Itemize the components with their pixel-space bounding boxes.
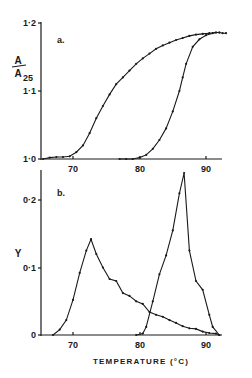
data-point [52, 334, 54, 336]
panel-b-xtick-label-90: 90 [201, 340, 211, 350]
data-point [82, 144, 84, 146]
data-point [172, 110, 174, 112]
panel-a-ytick-label-1.1: 1·1 [23, 86, 36, 96]
data-point [115, 83, 117, 85]
data-point [135, 63, 137, 65]
data-point [128, 295, 130, 297]
data-point [72, 299, 74, 301]
data-point [155, 314, 157, 316]
data-point [182, 325, 184, 327]
data-point [115, 280, 117, 282]
panel-b-ytick-label-0.2: 0·2 [23, 195, 36, 205]
panel-a-ylabel-denominator: A [14, 68, 21, 79]
data-point [202, 331, 204, 333]
data-point [142, 333, 144, 335]
data-point [182, 37, 184, 39]
chart-figure: 1·2 1·1 1·0 70 80 90 A A 25 a. 0·2 0·1 0… [0, 0, 252, 378]
panel-a-xtick-label-90: 90 [201, 164, 211, 174]
data-point [168, 42, 170, 44]
data-point [212, 326, 214, 328]
data-point [69, 155, 71, 157]
panel-b-ytick-label-0: 0 [31, 330, 36, 340]
data-point [165, 127, 167, 129]
data-point [59, 329, 61, 331]
series-line-curve-1-derivative [53, 239, 219, 335]
data-point [79, 272, 81, 274]
data-point [90, 238, 92, 240]
data-point [142, 57, 144, 59]
data-point [225, 32, 227, 34]
panel-b-xtick-label-80: 80 [135, 340, 145, 350]
data-point [122, 292, 124, 294]
data-point [142, 303, 144, 305]
data-point [152, 300, 154, 302]
data-point [95, 253, 97, 255]
panel-a-ylabel-subscript: 25 [23, 73, 33, 83]
panel-a-ytick-label-1.0: 1·0 [23, 154, 36, 164]
data-point [89, 132, 91, 134]
panel-b-ytick-label-0.1: 0·1 [23, 263, 36, 273]
data-point [158, 273, 160, 275]
data-point [202, 33, 204, 35]
data-point [165, 254, 167, 256]
panel-b-ylabel: Y [15, 248, 22, 259]
data-point [202, 289, 204, 291]
data-point [128, 70, 130, 72]
series-line-curve-1 [43, 33, 226, 160]
data-point [185, 63, 187, 65]
data-point [95, 117, 97, 119]
data-point [148, 53, 150, 55]
data-point [222, 32, 224, 34]
data-point [158, 139, 160, 141]
data-point [119, 158, 121, 160]
data-point [145, 326, 147, 328]
data-point [168, 319, 170, 321]
data-point [162, 44, 164, 46]
data-point [195, 328, 197, 330]
data-point [175, 39, 177, 41]
data-point [218, 334, 220, 336]
panel-a-series [42, 31, 227, 160]
data-point [178, 90, 180, 92]
data-point [162, 316, 164, 318]
panel-b-label: b. [57, 188, 65, 198]
data-point [135, 300, 137, 302]
data-point [102, 105, 104, 107]
data-point [208, 332, 210, 334]
data-point [75, 151, 77, 153]
data-point [188, 35, 190, 37]
panel-a: 1·2 1·1 1·0 70 80 90 A A 25 a. [12, 18, 227, 174]
data-point [85, 250, 87, 252]
data-point [215, 333, 217, 335]
data-point [42, 158, 44, 160]
series-line-curve-2 [120, 33, 220, 160]
data-point [195, 34, 197, 36]
data-point [65, 319, 67, 321]
data-point [205, 34, 207, 36]
data-point [62, 156, 64, 158]
panel-b-series [52, 172, 221, 336]
data-point [195, 280, 197, 282]
panel-a-ylabel-numerator: A [14, 55, 21, 66]
data-point [125, 158, 127, 160]
data-point [135, 334, 137, 336]
data-point [138, 157, 140, 159]
data-point [215, 31, 217, 33]
data-point [188, 327, 190, 329]
data-point [145, 154, 147, 156]
data-point [183, 172, 185, 174]
data-point [212, 32, 214, 34]
data-point [172, 229, 174, 231]
panel-b-xlabel: TEMPERATURE (°C) [93, 357, 189, 366]
panel-a-ytick-label-1.2: 1·2 [23, 18, 36, 28]
data-point [55, 156, 57, 158]
panel-a-xtick-label-80: 80 [135, 164, 145, 174]
data-point [132, 158, 134, 160]
data-point [178, 192, 180, 194]
panel-b-xtick-label-70: 70 [68, 340, 78, 350]
data-point [198, 38, 200, 40]
data-point [102, 266, 104, 268]
data-point [218, 31, 220, 33]
data-point [109, 93, 111, 95]
panel-b: 0·2 0·1 0 70 80 90 Y b. TEMPERATURE (°C) [15, 170, 222, 366]
